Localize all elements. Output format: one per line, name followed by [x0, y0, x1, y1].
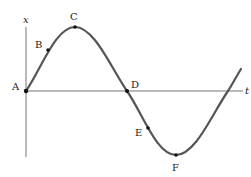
- point-e-label: E: [135, 127, 142, 138]
- point-e: [146, 126, 150, 130]
- point-b-label: B: [35, 39, 42, 50]
- vertical-axis-label: x: [23, 14, 29, 25]
- sine-wave-diagram: x t A B C D E F: [0, 0, 251, 177]
- point-c-label: C: [70, 11, 78, 22]
- point-d: [125, 89, 129, 93]
- point-a: [24, 89, 28, 93]
- point-f-label: F: [172, 162, 179, 173]
- point-b: [46, 48, 50, 52]
- point-c: [73, 25, 77, 29]
- point-f: [174, 153, 178, 157]
- point-a-label: A: [11, 81, 20, 92]
- horizontal-axis-label: t: [245, 85, 250, 96]
- point-d-label: D: [131, 79, 139, 90]
